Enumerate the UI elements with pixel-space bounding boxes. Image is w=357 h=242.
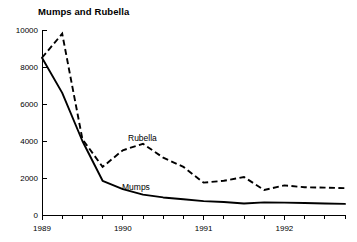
y-tick-label: 2000: [20, 174, 38, 183]
chart-container: Mumps and Rubella 0200040006000800010000…: [0, 0, 357, 242]
series-line-mumps: [42, 58, 345, 204]
y-tick-label: 10000: [16, 26, 39, 35]
series-annotation-mumps: Mumps: [122, 182, 150, 192]
x-tick-label: 1989: [33, 224, 51, 233]
y-tick-label: 6000: [20, 100, 38, 109]
x-tick-label: 1990: [114, 224, 132, 233]
y-tick-label: 0: [34, 211, 39, 220]
y-tick-label: 8000: [20, 63, 38, 72]
series-annotation-rubella: Rubella: [128, 133, 157, 143]
x-tick-label: 1991: [195, 224, 213, 233]
line-chart-plot: 0200040006000800010000 1989199019911992 …: [0, 0, 357, 242]
series-line-rubella: [42, 34, 345, 190]
y-axis: 0200040006000800010000: [16, 26, 47, 220]
x-tick-label: 1992: [276, 224, 294, 233]
x-axis: 1989199019911992: [33, 215, 345, 233]
y-tick-label: 4000: [20, 137, 38, 146]
series-lines: [42, 34, 345, 204]
